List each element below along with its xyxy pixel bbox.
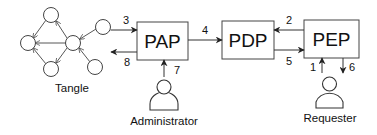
edge-label-1: 1 bbox=[310, 61, 316, 73]
administrator-label: Administrator bbox=[130, 115, 198, 127]
pdp-label: PDP bbox=[228, 30, 267, 51]
tangle-node-left bbox=[21, 36, 36, 51]
edge-label-6: 6 bbox=[349, 61, 355, 73]
pep-label: PEP bbox=[312, 29, 350, 50]
tangle-edge bbox=[33, 48, 46, 64]
edge-label-3: 3 bbox=[123, 14, 129, 26]
tangle-edge bbox=[79, 48, 90, 62]
tangle-label: Tangle bbox=[55, 82, 89, 94]
edge-label-7: 7 bbox=[174, 64, 180, 76]
edge-label-4: 4 bbox=[202, 24, 208, 36]
tangle-node-bottom bbox=[44, 62, 59, 77]
edge-label-2: 2 bbox=[286, 14, 292, 26]
tangle-edge bbox=[56, 21, 67, 38]
tangle-edge bbox=[56, 48, 67, 63]
tangle-graph: Tangle bbox=[21, 8, 111, 95]
person-icon bbox=[316, 77, 343, 108]
tangle-node-tip-lower bbox=[88, 60, 103, 75]
tangle-edge bbox=[33, 20, 46, 38]
tangle-node-center bbox=[66, 36, 81, 51]
person-icon bbox=[150, 80, 178, 110]
edge-label-8: 8 bbox=[124, 56, 130, 68]
tangle-node-top bbox=[44, 8, 59, 23]
tangle-node-tip-upper bbox=[96, 20, 111, 35]
administrator-actor: Administrator bbox=[130, 80, 198, 127]
pap-label: PAP bbox=[144, 31, 181, 52]
access-control-diagram: Tangle PAP PDP PEP 3 8 4 2 5 7 1 6 Admin… bbox=[0, 0, 377, 135]
requester-actor: Requester bbox=[303, 77, 356, 124]
requester-label: Requester bbox=[303, 112, 356, 124]
tangle-edge bbox=[80, 29, 96, 39]
edge-label-5: 5 bbox=[286, 55, 292, 67]
